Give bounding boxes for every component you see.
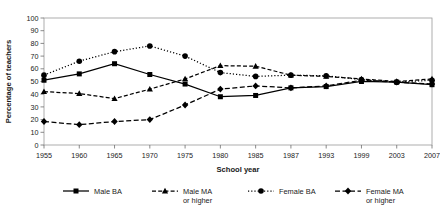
y-tick-label: 100: [27, 14, 39, 23]
series-line: [44, 80, 432, 124]
x-axis-title: School year: [216, 165, 259, 174]
marker-circle: [147, 43, 153, 49]
x-tick-label: 1960: [71, 151, 87, 160]
chart-canvas: 0102030405060708090100195519601965197019…: [0, 0, 440, 219]
x-tick-label: 1993: [318, 151, 334, 160]
legend-label: Female MA: [366, 187, 404, 196]
legend-entry-3[interactable]: Female MAor higher: [335, 187, 404, 205]
marker-square: [253, 93, 258, 98]
legend-label: Male BA: [94, 187, 122, 196]
legend-entry-0[interactable]: Male BA: [63, 187, 122, 196]
y-tick-label: 50: [31, 77, 39, 86]
marker-circle: [112, 49, 118, 55]
marker-square: [77, 71, 82, 76]
marker-circle: [258, 188, 264, 194]
y-axis-title: Percentage of teachers: [4, 40, 13, 124]
x-tick-label: 2003: [389, 151, 405, 160]
x-tick-label: 1965: [107, 151, 123, 160]
marker-square: [74, 189, 79, 194]
marker-circle: [323, 73, 329, 79]
legend-entry-2[interactable]: Female BA: [248, 187, 316, 196]
x-tick-label: 1985: [248, 151, 264, 160]
legend-label-line2: or higher: [183, 196, 213, 205]
marker-square: [147, 72, 152, 77]
marker-square: [183, 82, 188, 87]
legend-label-line2: or higher: [366, 196, 396, 205]
marker-diamond: [345, 188, 351, 195]
marker-diamond: [76, 121, 82, 128]
marker-square: [112, 61, 117, 66]
marker-diamond: [41, 118, 47, 125]
series-female-ba: [41, 43, 435, 85]
x-tick-label: 1955: [36, 151, 52, 160]
marker-triangle: [147, 86, 153, 92]
marker-diamond: [147, 116, 153, 123]
series-female-ma-or-higher: [41, 77, 435, 128]
marker-circle: [253, 74, 259, 80]
legend-entry-1[interactable]: Male MAor higher: [152, 187, 213, 205]
x-tick-label: 1980: [212, 151, 228, 160]
marker-triangle: [217, 62, 223, 68]
y-tick-label: 30: [31, 103, 39, 112]
marker-diamond: [217, 86, 223, 93]
marker-diamond: [111, 118, 117, 125]
marker-circle: [288, 72, 294, 78]
series-line: [44, 46, 432, 82]
x-tick-label: 1975: [177, 151, 193, 160]
y-tick-label: 60: [31, 64, 39, 73]
y-tick-label: 20: [31, 115, 39, 124]
x-tick-label: 1999: [353, 151, 369, 160]
x-tick-label: 2007: [424, 151, 440, 160]
x-tick-label: 1987: [283, 151, 299, 160]
y-tick-label: 40: [31, 90, 39, 99]
y-tick-label: 10: [31, 128, 39, 137]
legend-label: Female BA: [279, 187, 316, 196]
marker-diamond: [252, 83, 258, 90]
marker-circle: [41, 72, 47, 78]
marker-circle: [76, 58, 82, 64]
y-tick-label: 70: [31, 52, 39, 61]
y-tick-label: 80: [31, 39, 39, 48]
marker-triangle: [253, 63, 259, 69]
legend-label: Male MA: [183, 187, 212, 196]
y-tick-label: 90: [31, 26, 39, 35]
line-chart: 0102030405060708090100195519601965197019…: [0, 0, 440, 219]
marker-square: [218, 94, 223, 99]
marker-square: [42, 78, 47, 83]
x-tick-label: 1970: [142, 151, 158, 160]
marker-diamond: [182, 102, 188, 109]
marker-circle: [182, 53, 188, 59]
y-tick-label: 0: [35, 141, 39, 150]
marker-circle: [218, 70, 224, 76]
